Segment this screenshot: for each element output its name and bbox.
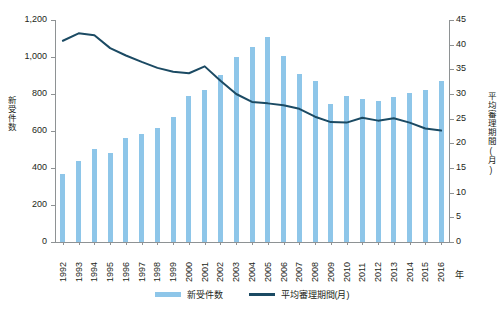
x-axis-tick-label-1993: 1993 (74, 244, 84, 282)
y-axis-right-tick-label: 15 (456, 162, 480, 172)
x-axis-tick (142, 242, 143, 245)
x-axis-tick (157, 242, 158, 245)
y-axis-right-tick (450, 45, 454, 46)
x-axis-tick-label-2005: 2005 (263, 244, 273, 282)
x-axis-tick (94, 242, 95, 245)
x-axis-tick (331, 242, 332, 245)
x-axis-tick (189, 242, 190, 245)
x-axis-tick (79, 242, 80, 245)
x-axis-tick-label-2008: 2008 (310, 244, 320, 282)
x-axis-tick-label-2012: 2012 (373, 244, 383, 282)
y-axis-right-tick-label: 0 (456, 236, 480, 246)
y-axis-right-tick (450, 242, 454, 243)
x-axis-tick-label-1999: 1999 (168, 244, 178, 282)
y-axis-right-title: 平均審理期間(月) (484, 92, 495, 175)
y-axis-right-tick-label: 30 (456, 88, 480, 98)
x-axis-tick-label-1992: 1992 (58, 244, 68, 282)
x-axis-tick (362, 242, 363, 245)
x-axis-tick-label-2013: 2013 (389, 244, 399, 282)
y-axis-left-tick (51, 242, 55, 243)
x-axis-tick (425, 242, 426, 245)
x-axis-tick-label-2004: 2004 (247, 244, 257, 282)
x-axis-tick (220, 242, 221, 245)
x-axis-unit-label: 年 (455, 268, 464, 281)
x-axis-tick-label-2015: 2015 (420, 244, 430, 282)
y-axis-right-tick (450, 193, 454, 194)
x-axis-tick-label-1998: 1998 (152, 244, 162, 282)
x-axis-tick (299, 242, 300, 245)
y-axis-right-tick (450, 69, 454, 70)
line-series-layer (55, 20, 449, 242)
y-axis-right-line (449, 20, 450, 243)
y-axis-right-tick-label: 20 (456, 137, 480, 147)
x-axis-tick-label-2006: 2006 (279, 244, 289, 282)
y-axis-left-tick-label: 1,000 (5, 51, 47, 61)
x-axis-tick (110, 242, 111, 245)
y-axis-right-tick (450, 168, 454, 169)
x-axis-tick-label-2000: 2000 (184, 244, 194, 282)
y-axis-left-tick-label: 1,200 (5, 14, 47, 24)
x-axis-tick (410, 242, 411, 245)
y-axis-left-tick-label: 0 (5, 236, 47, 246)
y-axis-right-tick (450, 20, 454, 21)
y-axis-left-tick-label: 400 (5, 162, 47, 172)
legend-item-bars: 新受件数 (155, 288, 223, 301)
y-axis-left-tick-label: 600 (5, 125, 47, 135)
x-axis-tick-label-1996: 1996 (121, 244, 131, 282)
chart-legend: 新受件数 平均審理期間(月) (0, 288, 504, 301)
y-axis-left-tick-label: 800 (5, 88, 47, 98)
x-axis-tick (441, 242, 442, 245)
x-axis-tick (252, 242, 253, 245)
x-axis-tick-label-2011: 2011 (357, 244, 367, 282)
average-duration-line (63, 33, 441, 130)
x-axis-tick-label-1995: 1995 (105, 244, 115, 282)
legend-line-swatch-icon (249, 293, 275, 296)
x-axis-tick (205, 242, 206, 245)
x-axis-tick (315, 242, 316, 245)
x-axis-tick (378, 242, 379, 245)
x-axis-tick (394, 242, 395, 245)
x-axis-tick-label-2003: 2003 (231, 244, 241, 282)
legend-item-line: 平均審理期間(月) (249, 288, 350, 301)
legend-bar-swatch-icon (155, 292, 181, 297)
x-axis-tick (236, 242, 237, 245)
x-axis-tick (63, 242, 64, 245)
chart-container: 新受件数 平均審理期間(月) 02004006008001,0001,200 0… (0, 0, 504, 309)
y-axis-left-tick-label: 200 (5, 199, 47, 209)
y-axis-right-tick (450, 217, 454, 218)
x-axis-tick-label-2007: 2007 (294, 244, 304, 282)
x-axis-tick-label-2009: 2009 (326, 244, 336, 282)
legend-label-bars: 新受件数 (187, 288, 223, 301)
y-axis-right-tick-label: 5 (456, 211, 480, 221)
x-axis-tick-label-2002: 2002 (215, 244, 225, 282)
x-axis-tick-label-2014: 2014 (405, 244, 415, 282)
x-axis-tick-label-1997: 1997 (137, 244, 147, 282)
x-axis-tick (173, 242, 174, 245)
y-axis-right-tick-label: 25 (456, 113, 480, 123)
x-axis-tick (268, 242, 269, 245)
y-axis-right-tick (450, 119, 454, 120)
legend-label-line: 平均審理期間(月) (281, 288, 350, 301)
x-axis-tick-label-2010: 2010 (342, 244, 352, 282)
y-axis-right-tick-label: 10 (456, 187, 480, 197)
x-axis-tick-labels: 1992199319941995199619971998199920002001… (55, 244, 449, 286)
x-axis-tick-label-2016: 2016 (436, 244, 446, 282)
x-axis-tick (284, 242, 285, 245)
x-axis-tick (347, 242, 348, 245)
x-axis-tick-label-1994: 1994 (89, 244, 99, 282)
x-axis-tick (126, 242, 127, 245)
line-series-svg (55, 20, 449, 242)
x-axis-tick-label-2001: 2001 (200, 244, 210, 282)
y-axis-right-tick (450, 143, 454, 144)
y-axis-right-tick (450, 94, 454, 95)
y-axis-right-tick-label: 40 (456, 39, 480, 49)
y-axis-right-tick-label: 45 (456, 14, 480, 24)
y-axis-right-tick-label: 35 (456, 63, 480, 73)
